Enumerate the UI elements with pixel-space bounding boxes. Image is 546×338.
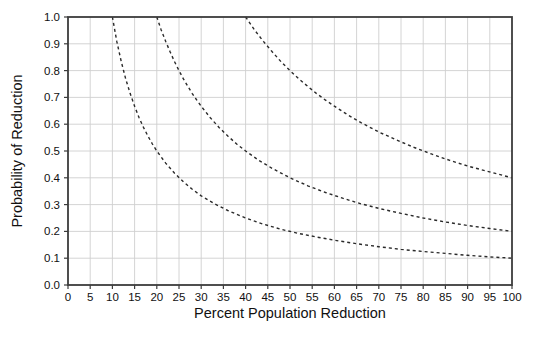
x-tick-label: 70 [372,291,385,303]
probability-vs-population-reduction-chart: 0510152025303540455055606570758085909510… [0,0,546,338]
x-axis-title: Percent Population Reduction [194,305,386,321]
y-tick-label: 0.2 [44,225,60,237]
y-tick-label: 0.0 [44,279,60,291]
y-tick-label: 0.1 [44,252,60,264]
x-tick-label: 30 [195,291,208,303]
y-tick-label: 0.3 [44,199,60,211]
x-tick-label: 25 [173,291,186,303]
y-tick-label: 0.9 [44,38,60,50]
y-tick-label: 0.4 [44,172,61,184]
x-tick-label: 80 [417,291,430,303]
x-tick-label: 15 [128,291,141,303]
y-tick-label: 0.8 [44,65,60,77]
x-tick-label: 75 [395,291,408,303]
x-tick-label: 5 [87,291,93,303]
x-tick-label: 35 [217,291,230,303]
x-tick-label: 50 [284,291,297,303]
y-axis-title: Probability of Reduction [9,74,25,227]
y-tick-label: 0.6 [44,118,60,130]
chart-figure: 0510152025303540455055606570758085909510… [0,0,546,338]
y-tick-label: 0.5 [44,145,60,157]
x-tick-label: 95 [483,291,496,303]
x-tick-label: 100 [502,291,521,303]
x-tick-label: 65 [350,291,363,303]
x-tick-label: 85 [439,291,452,303]
x-tick-label: 90 [461,291,474,303]
x-tick-label: 45 [261,291,274,303]
y-tick-label: 0.7 [44,91,60,103]
y-tick-label: 1.0 [44,11,60,23]
x-tick-label: 0 [65,291,71,303]
x-tick-label: 60 [328,291,341,303]
x-tick-label: 10 [106,291,119,303]
x-tick-label: 55 [306,291,319,303]
x-tick-label: 40 [239,291,252,303]
x-tick-label: 20 [150,291,163,303]
